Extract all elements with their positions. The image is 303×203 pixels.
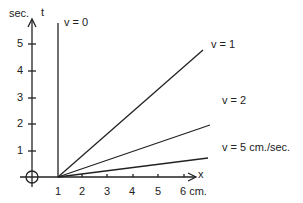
x-tick-1: 1 <box>55 185 61 197</box>
y-tick-5: 5 <box>17 37 23 49</box>
y-unit-label: sec. <box>9 7 29 19</box>
x-tick-2: 2 <box>79 185 85 197</box>
y-tick-3: 3 <box>17 91 23 103</box>
v5-label: v = 5 cm./sec. <box>222 141 290 153</box>
velocity-diagram: sec. t v = 0 v = 1 v = 2 v = 5 cm./sec. … <box>0 0 303 203</box>
x-tick-3: 3 <box>104 185 110 197</box>
x-tick-4: 4 <box>129 185 135 197</box>
y-tick-2: 2 <box>17 117 23 129</box>
x-axis-label: x <box>198 168 204 180</box>
x-tick-6: 6 cm. <box>180 185 207 197</box>
diagram-lines <box>0 0 303 203</box>
v0-label: v = 0 <box>64 16 88 28</box>
v2-label: v = 2 <box>222 94 246 106</box>
y-tick-4: 4 <box>17 64 23 76</box>
y-axis-label: t <box>41 6 44 18</box>
x-tick-5: 5 <box>155 185 161 197</box>
y-tick-1: 1 <box>17 144 23 156</box>
v1-label: v = 1 <box>211 38 235 50</box>
